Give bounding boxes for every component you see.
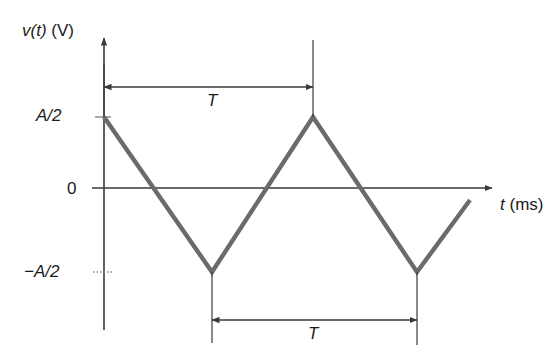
- y-axis-label: v(t) (V): [22, 22, 74, 39]
- y-tick-label-zero: 0: [67, 180, 76, 197]
- y-tick-marks-group: [93, 117, 112, 272]
- y-tick-label-amplitude-negative: −A/2: [24, 263, 59, 280]
- period-top-label: T: [207, 92, 217, 109]
- y-axis-label-variable: v(t): [22, 21, 47, 40]
- period-bottom-label: T: [308, 325, 318, 342]
- x-axis-label: t (ms): [500, 196, 543, 213]
- waveform-figure: v(t) (V) t (ms) A/2 0 −A/2 T T: [0, 0, 553, 362]
- x-axis-label-unit: (ms): [509, 195, 543, 214]
- y-axis-label-unit: (V): [51, 21, 74, 40]
- waveform-trace-group: [104, 117, 470, 272]
- y-tick-label-amplitude-positive: A/2: [36, 107, 62, 124]
- waveform-plot-svg: [0, 0, 553, 362]
- waveform-trace: [104, 117, 470, 272]
